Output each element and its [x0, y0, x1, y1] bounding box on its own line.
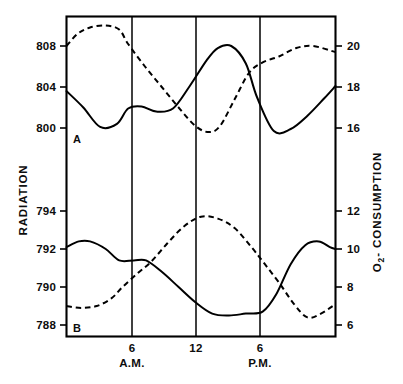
right-tick-label-12: 12: [347, 205, 360, 217]
plot-frame: [67, 17, 336, 337]
x-tick-sublabel-am: A.M.: [119, 357, 144, 369]
right-tick-label-10: 10: [347, 243, 360, 255]
left-tick-label-790: 790: [36, 281, 56, 293]
left-tick-label-792: 792: [36, 243, 56, 255]
panel-label-a: A: [73, 133, 81, 145]
left-tick-label-794: 794: [36, 205, 56, 217]
right-tick-label-8: 8: [347, 281, 354, 293]
left-tick-labels: 808 804 800 794 792 790 788: [36, 40, 56, 331]
o2-consumption-B: [67, 216, 336, 318]
figure-container: RADIATION O2- CONSUMPTION 8: [0, 0, 403, 384]
right-tick-label-18: 18: [347, 81, 361, 93]
x-tick-label-6am: 6: [129, 342, 136, 354]
right-tick-labels: 20 18 16 12 10 8 6: [347, 40, 361, 331]
right-tick-label-16: 16: [347, 122, 360, 134]
radiation-A: [67, 45, 336, 134]
radiation-B: [67, 241, 336, 316]
gridlines: [132, 17, 260, 336]
left-tick-label-804: 804: [36, 81, 56, 93]
x-tick-label-6pm: 6: [257, 342, 264, 354]
data-curves: [67, 25, 336, 317]
panel-label-b: B: [73, 322, 81, 334]
x-tick-sublabel-pm: P.M.: [248, 357, 271, 369]
right-tick-label-6: 6: [347, 319, 354, 331]
left-tick-label-800: 800: [36, 122, 56, 134]
right-axis-title-base: O: [371, 262, 383, 272]
right-axis-title-rest: - CONSUMPTION: [371, 152, 383, 257]
left-tick-label-808: 808: [36, 40, 56, 52]
right-axis-title: O2- CONSUMPTION: [371, 152, 386, 272]
x-tick-label-12: 12: [189, 342, 202, 354]
x-tick-labels: 6 A.M. 12 6 P.M.: [119, 342, 271, 369]
right-tick-label-20: 20: [347, 40, 360, 52]
left-axis-title-text: RADIATION: [17, 164, 29, 235]
chart-svg: RADIATION O2- CONSUMPTION 8: [0, 0, 403, 384]
left-axis-title: RADIATION: [17, 164, 29, 235]
o2-consumption-A: [67, 25, 336, 132]
right-axis-title-text: O2- CONSUMPTION: [371, 152, 386, 272]
left-tick-label-788: 788: [36, 319, 56, 331]
